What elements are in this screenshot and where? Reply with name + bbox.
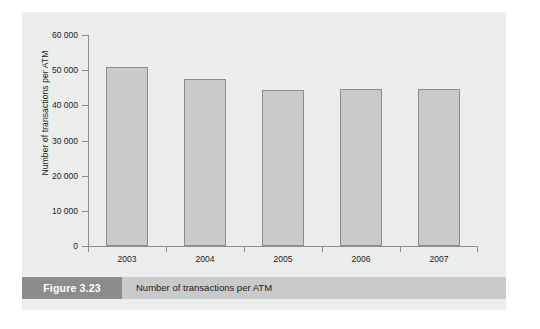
chart-area: Number of transactions per ATM 0 10 000 … bbox=[22, 12, 506, 270]
plot-region: 0 10 000 20 000 30 000 40 000 50 000 60 … bbox=[88, 35, 484, 247]
y-tick-label-60000: 60 000 bbox=[52, 30, 78, 40]
x-tick-boundary-5 bbox=[477, 246, 478, 252]
figure-panel: Number of transactions per ATM 0 10 000 … bbox=[22, 12, 506, 310]
y-tick-40000: 40 000 bbox=[82, 105, 89, 106]
x-label-2005: 2005 bbox=[253, 254, 313, 264]
x-tick-boundary-0 bbox=[88, 246, 89, 252]
x-label-2006: 2006 bbox=[331, 254, 391, 264]
figure-caption-text: Number of transactions per ATM bbox=[136, 277, 272, 299]
y-tick-60000: 60 000 bbox=[82, 35, 89, 36]
y-tick-label-20000: 20 000 bbox=[52, 171, 78, 181]
y-axis-title: Number of transactions per ATM bbox=[40, 28, 50, 198]
y-tick-10000: 10 000 bbox=[82, 211, 89, 212]
x-tick-boundary-2 bbox=[244, 246, 245, 252]
x-tick-boundary-1 bbox=[166, 246, 167, 252]
figure-number-tag: Figure 3.23 bbox=[22, 277, 122, 299]
y-tick-label-10000: 10 000 bbox=[52, 206, 78, 216]
bar-2006 bbox=[340, 89, 382, 246]
x-label-2003: 2003 bbox=[97, 254, 157, 264]
x-label-2004: 2004 bbox=[175, 254, 235, 264]
bar-2004 bbox=[184, 79, 226, 246]
bar-2007 bbox=[418, 89, 460, 246]
x-tick-boundary-4 bbox=[400, 246, 401, 252]
x-axis-line bbox=[88, 246, 478, 247]
bar-2003 bbox=[106, 67, 148, 246]
bar-2005 bbox=[262, 90, 304, 247]
figure-caption-bar: Figure 3.23 Number of transactions per A… bbox=[22, 277, 506, 299]
y-tick-20000: 20 000 bbox=[82, 176, 89, 177]
y-tick-label-30000: 30 000 bbox=[52, 136, 78, 146]
y-tick-label-40000: 40 000 bbox=[52, 100, 78, 110]
x-tick-boundary-3 bbox=[322, 246, 323, 252]
y-tick-50000: 50 000 bbox=[82, 70, 89, 71]
x-label-2007: 2007 bbox=[409, 254, 469, 264]
y-tick-30000: 30 000 bbox=[82, 141, 89, 142]
y-tick-label-0: 0 bbox=[73, 241, 78, 251]
y-tick-label-50000: 50 000 bbox=[52, 65, 78, 75]
